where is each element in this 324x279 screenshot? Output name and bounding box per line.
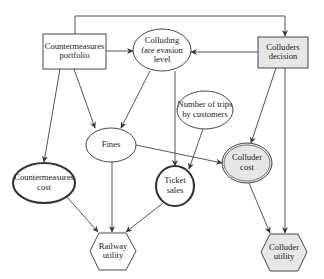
edge-colluders-decision-to-colluder-cost bbox=[251, 68, 276, 143]
node-colluder-utility-label: Colluder utility bbox=[269, 243, 299, 262]
edge-portfolio-to-countermeasures-cost bbox=[44, 69, 60, 162]
node-colluders-decision-label: Colluders decision bbox=[266, 43, 299, 62]
node-countermeasures-cost-label: Countermeasures cost bbox=[14, 173, 74, 192]
node-number-of-trips-label: Number of trips by customers bbox=[178, 100, 233, 119]
edge-fare-evasion-to-fines bbox=[121, 71, 150, 128]
node-countermeasures-portfolio-label: Countermeasures portfolio bbox=[45, 42, 105, 61]
influence-diagram: Countermeasures portfolio Colluders deci… bbox=[0, 0, 324, 279]
node-ticket-sales-label: Ticket sales bbox=[164, 176, 186, 195]
edge-trips-to-ticket-sales bbox=[189, 129, 203, 169]
node-fines-label: Fines bbox=[102, 140, 121, 150]
edge-colluder-cost-to-colluder-utility bbox=[249, 183, 270, 233]
edge-countermeasures-cost-to-railway-utility bbox=[67, 197, 98, 232]
edge-portfolio-to-fines bbox=[74, 69, 95, 128]
edge-ticket-sales-to-railway-utility bbox=[126, 203, 163, 232]
node-colluder-cost-label: Colluder cost bbox=[232, 153, 262, 172]
node-fare-evasion-label: Colluding fare evasion level bbox=[141, 36, 183, 65]
edge-fines-to-colluder-cost bbox=[136, 145, 222, 163]
node-railway-utility-label: Railway utility bbox=[99, 242, 128, 261]
